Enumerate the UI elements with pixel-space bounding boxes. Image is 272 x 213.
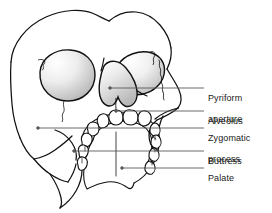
- label-palate: Palate: [208, 162, 234, 194]
- dental-arch: [77, 110, 161, 189]
- label-palate-line1: Palate: [208, 173, 234, 184]
- leader-dot-pyriform-aperture: [109, 87, 112, 90]
- label-pyriform-aperture-line1: Pyriform: [208, 93, 242, 104]
- skull-anatomy-figure: Pyriform aperture Alveolus Zygomatic pro…: [0, 0, 272, 213]
- left-orbit: [38, 50, 95, 122]
- leader-dot-palate: [121, 167, 124, 170]
- leader-dot-zygomatic-process: [37, 127, 40, 130]
- leader-dot-alveolus: [115, 110, 118, 113]
- maxilla-left-buttress: [34, 130, 82, 208]
- leader-dot-buttress: [73, 150, 76, 153]
- label-zygomatic-process-line1: Zygomatic: [208, 133, 250, 144]
